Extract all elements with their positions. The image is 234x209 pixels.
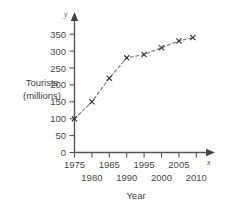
- x-tick-label: 2005: [168, 159, 189, 170]
- x-tick-label: 1995: [134, 159, 155, 170]
- data-point: [89, 99, 94, 104]
- data-series-line: [75, 38, 193, 119]
- chart-container: y x 0 50 100 150 200 250 300 350: [0, 0, 234, 209]
- y-axis-title-line2: (millions): [23, 90, 61, 101]
- x-axis-arrow-icon: [206, 149, 215, 156]
- y-axis-arrow-icon: [71, 12, 78, 21]
- x-axis-letter: x: [206, 158, 211, 167]
- x-axis-title: Year: [126, 190, 145, 201]
- y-axis-ticks: [70, 34, 75, 152]
- y-tick-label: 350: [50, 29, 66, 40]
- y-tick-label: 100: [50, 113, 66, 124]
- x-axis-tick-labels-upper: 1975 1985 1995 2005: [64, 159, 190, 170]
- y-tick-label: 0: [61, 147, 66, 158]
- x-axis-tick-labels-lower: 1980 1990 2000 2010: [81, 172, 207, 183]
- y-tick-label: 50: [55, 130, 66, 141]
- x-tick-label: 2010: [186, 172, 207, 183]
- data-point-markers: [72, 35, 196, 121]
- x-tick-label: 1985: [99, 159, 120, 170]
- y-axis-letter: y: [63, 10, 68, 19]
- x-tick-label: 1980: [81, 172, 102, 183]
- x-tick-label: 1990: [116, 172, 137, 183]
- x-axis-ticks: [75, 153, 197, 158]
- x-tick-label: 1975: [64, 159, 85, 170]
- data-point: [159, 45, 164, 50]
- data-point: [124, 55, 129, 60]
- x-tick-label: 2000: [151, 172, 172, 183]
- y-axis-title-line1: Tourists: [26, 77, 59, 88]
- y-tick-label: 250: [50, 63, 66, 74]
- data-point: [107, 76, 112, 81]
- y-tick-label: 300: [50, 46, 66, 57]
- line-chart: y x 0 50 100 150 200 250 300 350: [0, 0, 234, 209]
